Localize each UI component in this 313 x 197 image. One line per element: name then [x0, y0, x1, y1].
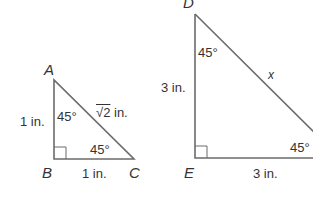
- angle-f-label: 45°: [290, 141, 310, 154]
- side-df-label: x: [268, 69, 274, 81]
- triangle-def-hypotenuse: [195, 14, 313, 132]
- vertex-b-label: B: [42, 165, 52, 180]
- side-ef-label: 3 in.: [253, 167, 278, 180]
- vertex-c-label: C: [129, 165, 140, 180]
- vertex-e-label: E: [184, 165, 194, 180]
- side-de-label: 3 in.: [161, 81, 186, 94]
- side-ac-label: √2 in.: [96, 106, 128, 119]
- triangle-def-legs: [195, 14, 313, 158]
- right-angle-marker-e: [195, 146, 207, 158]
- vertex-d-label: D: [183, 0, 194, 10]
- vertex-a-label: A: [44, 62, 54, 77]
- angle-a-label: 45°: [57, 110, 77, 123]
- side-ab-label: 1 in.: [20, 115, 45, 128]
- radical-unit: in.: [110, 105, 127, 120]
- angle-c-label: 45°: [90, 143, 110, 156]
- triangle-def: [195, 14, 313, 158]
- side-bc-label: 1 in.: [82, 167, 107, 180]
- angle-d-label: 45°: [198, 46, 218, 59]
- radical-value: √2: [96, 105, 110, 120]
- right-angle-marker-b: [54, 147, 66, 159]
